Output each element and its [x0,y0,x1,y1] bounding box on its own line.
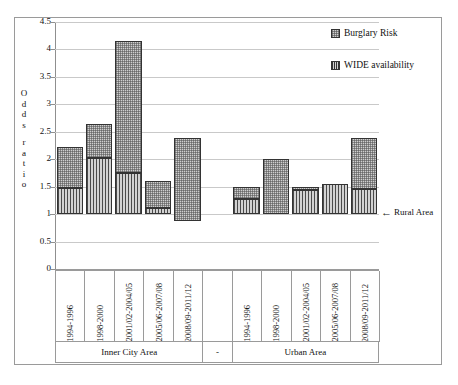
x-axis-category-cell: 2005/06-2007/08 [143,271,172,342]
x-axis-category-label: 1994-1996 [65,303,75,342]
x-axis-separator-cell [202,271,231,342]
legend-item-burglary-risk: Burglary Risk [331,28,414,38]
x-axis-category-label: 2001/02-2004/05 [301,281,311,342]
y-axis-tick-label: 2 [47,153,52,163]
legend-label-burglary-risk: Burglary Risk [344,28,397,38]
bar-segment-wide-availability [86,158,112,215]
bar-segment-burglary-risk [86,124,112,158]
bar-segment-burglary-risk [115,41,141,173]
y-axis-tick-label: 3.5 [40,71,51,81]
x-axis-category-label: 2001/02-2004/05 [124,281,134,342]
legend-item-wide-availability: WIDE availability [331,60,414,70]
bar [174,138,200,221]
legend-swatch-burglary-icon [331,29,340,38]
bar-segment-wide-availability [292,190,318,214]
group-label-urban-area: Urban Area [232,342,379,362]
bar-segment-wide-availability [57,188,83,214]
y-axis-tick-labels: 00.511.522.533.544.5 [15,22,51,269]
x-axis-table-right-edge [379,271,380,342]
x-axis-category-label: 2008/09-2011/12 [183,282,193,342]
bar [322,184,348,214]
bar-segment-wide-availability [351,189,377,214]
bar-segment-wide-availability [233,199,259,214]
bar-segment-burglary-risk [174,138,200,221]
chart-legend: Burglary Risk WIDE availability [331,28,414,92]
legend-swatch-wide-icon [331,61,340,70]
bar-segment-wide-availability [115,173,141,214]
bar [263,159,289,214]
y-axis-tick-label: 1.5 [40,181,51,191]
bar-segment-burglary-risk [233,187,259,199]
x-axis-category-cell: 1998-2000 [84,271,113,342]
x-axis-category-cell: 2005/06-2007/08 [320,271,349,342]
x-axis-category-table: 1994-19961998-20002001/02-2004/052005/06… [55,270,379,341]
y-axis-tick-label: 4.5 [40,16,51,26]
y-axis-tick-label: 0.5 [40,236,51,246]
rural-area-annotation: ← Rural Area [381,207,433,217]
bar [145,181,171,214]
x-axis-category-label: 1998-2000 [271,303,281,342]
y-axis-tick-label: 1 [47,208,52,218]
x-axis-category-label: 2008/09-2011/12 [360,282,370,342]
bar [115,41,141,214]
x-axis-category-label: 2005/06-2007/08 [330,281,340,342]
x-axis-category-cell: 2001/02-2004/05 [114,271,143,342]
x-axis-category-cell: 1994-1996 [232,271,261,342]
bar [351,138,377,214]
x-axis-group-band: Inner City Area-Urban Area [55,341,379,363]
bar [57,147,83,215]
x-axis-category-label: 1994-1996 [242,303,252,342]
bar [86,124,112,215]
y-axis-tick-label: 0 [47,263,52,273]
x-axis-category-cell: 1998-2000 [261,271,290,342]
left-arrow-icon: ← [381,208,391,217]
x-axis-category-cell: 2001/02-2004/05 [291,271,320,342]
bar-segment-burglary-risk [57,147,83,188]
y-axis-tick-label: 2.5 [40,126,51,136]
bar [233,187,259,214]
group-separator-label: - [202,342,231,362]
bar-segment-burglary-risk [351,138,377,190]
bar-segment-wide-availability [322,184,348,214]
legend-label-wide-availability: WIDE availability [344,60,414,70]
x-axis-category-label: 2005/06-2007/08 [154,281,164,342]
y-axis-tick-label: 4 [47,43,52,53]
group-label-inner-city-area: Inner City Area [55,342,202,362]
bar-segment-burglary-risk [263,159,289,214]
x-axis-category-cell: 2008/09-2011/12 [173,271,202,342]
bar-segment-burglary-risk [145,181,171,208]
bar [292,187,318,214]
x-axis-category-label: 1998-2000 [95,303,105,342]
chart-root: Oddsratio 00.511.522.533.544.5 ← Rural A… [0,0,458,385]
x-axis-category-cell: 2008/09-2011/12 [350,271,379,342]
rural-area-label: Rural Area [394,207,433,217]
y-axis-tick-label: 3 [47,98,52,108]
x-axis-category-cell: 1994-1996 [55,271,84,342]
bar-segment-wide-availability [145,208,171,214]
